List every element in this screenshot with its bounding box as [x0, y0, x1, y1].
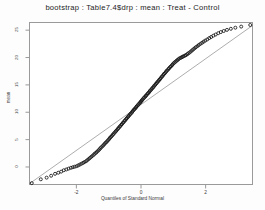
x-tick-label: -2: [68, 190, 84, 195]
y-tick-label: 25: [13, 21, 18, 39]
x-axis-label: Quantiles of Standard Normal: [0, 196, 265, 201]
x-tick-label: 2: [198, 190, 214, 195]
y-tick-label: 20: [13, 48, 18, 66]
qq-plot-svg: [0, 0, 265, 210]
plot-area: mean Quantiles of Standard Normal 051015…: [0, 0, 265, 210]
x-tick-label: 0: [133, 190, 149, 195]
y-axis-label: mean: [6, 83, 11, 113]
y-tick-label: 10: [13, 103, 18, 121]
y-tick-label: 5: [13, 130, 18, 148]
y-tick-label: 0: [13, 157, 18, 175]
y-tick-label: 15: [13, 75, 18, 93]
graph-window: bootstrap : Table7.4$drp : mean : Treat …: [0, 0, 265, 210]
